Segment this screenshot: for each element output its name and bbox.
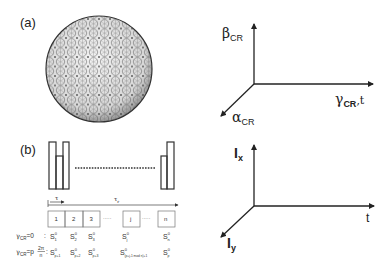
tau-r-label: τr xyxy=(114,195,119,204)
iy-axis xyxy=(221,206,254,237)
figure: (a) βCR γCR,t αCR (b) τ τr xyxy=(0,0,386,269)
box-3: 3 xyxy=(90,216,94,222)
t-label: t xyxy=(366,211,370,225)
iy-label: Iy xyxy=(227,235,236,253)
row1-state-3: S03 xyxy=(88,231,96,242)
svg-text::: : xyxy=(46,248,48,255)
svg-text:2π: 2π xyxy=(38,245,45,251)
row2-state-3: S0p+3 xyxy=(88,247,98,258)
svg-text:n: n xyxy=(40,252,43,258)
row1-state-n: S0n xyxy=(163,231,171,242)
row1-lhs: γCR=0 xyxy=(16,232,34,241)
geodesic-sphere-icon xyxy=(40,10,160,130)
tau-label: τ xyxy=(55,194,59,201)
state-row-2: γCR=p 2π n : S0p+1 S0p+2 S0p+3 S0(p+j-1 … xyxy=(16,245,171,258)
box-2: 2 xyxy=(72,216,76,222)
ix-label: Ix xyxy=(234,145,243,163)
box-j: j xyxy=(129,216,131,222)
panel-b-label: (b) xyxy=(20,142,36,157)
svg-text::: : xyxy=(44,232,46,239)
row2-state-j: S0(p+j-1 mod n)+1 xyxy=(120,247,147,258)
panel-a-label: (a) xyxy=(20,15,36,30)
row1-state-1: S01 xyxy=(50,231,58,242)
state-row-1: γCR=0 : S01 S02 S03 S0j S0n xyxy=(16,231,171,242)
gamma-label: γCR,t xyxy=(335,91,365,109)
row2-state-n: S0p xyxy=(163,247,171,258)
pulse-sequence xyxy=(49,142,174,189)
state-boxes: 1 2 3 j n ····· ····· xyxy=(48,211,175,227)
alpha-label: αCR xyxy=(232,109,255,127)
ellipsis-2: ····· xyxy=(142,215,151,221)
row2-state-1: S0p+1 xyxy=(50,247,60,258)
row1-state-j: S0j xyxy=(122,231,130,242)
row2-lhs: γCR=p xyxy=(16,248,34,257)
row2-state-2: S0p+2 xyxy=(70,247,80,258)
box-1: 1 xyxy=(55,216,59,222)
ellipsis-1: ····· xyxy=(103,215,112,221)
rotation-axes: βCR γCR,t αCR xyxy=(221,24,373,127)
beta-label: βCR xyxy=(222,25,244,43)
magnetization-axes: Ix t Iy xyxy=(221,145,374,253)
row1-state-2: S02 xyxy=(70,231,78,242)
timing-arrows: τ τr xyxy=(48,194,178,207)
box-n: n xyxy=(164,216,167,222)
